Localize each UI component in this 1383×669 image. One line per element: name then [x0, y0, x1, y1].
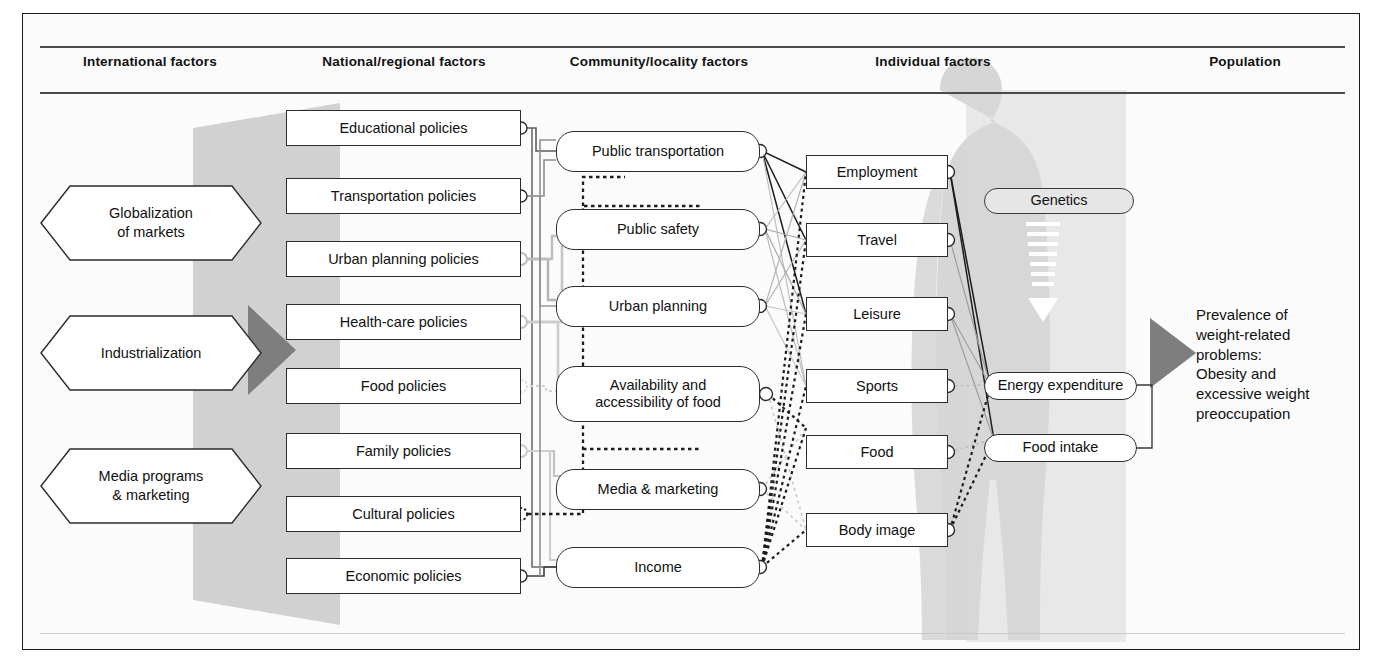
shadow-band-individual [966, 90, 1126, 642]
node-economic-policies[interactable]: Economic policies [286, 558, 521, 594]
figure-canvas: International factors National/regional … [0, 0, 1383, 669]
node-body-image[interactable]: Body image [806, 513, 948, 547]
node-sports[interactable]: Sports [806, 369, 948, 403]
outcome-line-4: Obesity and [1196, 364, 1356, 384]
connectors-national-to-community [524, 128, 566, 576]
node-leisure[interactable]: Leisure [806, 297, 948, 331]
column-header-population: Population [1145, 54, 1345, 69]
header-rule-top [40, 46, 1345, 48]
node-public-transportation[interactable]: Public transportation [556, 131, 760, 172]
footer-rule [40, 633, 1345, 634]
node-employment[interactable]: Employment [806, 155, 948, 189]
hexagon-globalization-label: Globalizationof markets [40, 185, 262, 261]
node-genetics[interactable]: Genetics [984, 188, 1134, 214]
node-family-policies[interactable]: Family policies [286, 433, 521, 469]
column-header-individual: Individual factors [833, 54, 1033, 69]
node-food[interactable]: Food [806, 435, 948, 469]
node-public-safety[interactable]: Public safety [556, 209, 760, 250]
bracket-to-population [1137, 385, 1152, 448]
node-food-intake[interactable]: Food intake [984, 434, 1137, 462]
node-food-policies[interactable]: Food policies [286, 368, 521, 404]
header-rule-bottom [40, 92, 1345, 94]
outcome-line-3: problems: [1196, 345, 1356, 365]
node-urban-planning-policies[interactable]: Urban planning policies [286, 241, 521, 277]
outcome-line-5: excessive weight [1196, 384, 1356, 404]
arrow-to-population [1150, 318, 1196, 388]
node-availability-accessibility-of-food[interactable]: Availability andaccessibility of food [556, 366, 760, 422]
outcome-text: Prevalence of weight-related problems: O… [1196, 305, 1356, 424]
node-transportation-policies[interactable]: Transportation policies [286, 178, 521, 214]
outcome-line-6: preoccupation [1196, 404, 1356, 424]
hexagon-media-programs[interactable]: Media programs& marketing [40, 448, 262, 524]
hexagon-industrialization[interactable]: Industrialization [40, 315, 262, 391]
node-income[interactable]: Income [556, 547, 760, 588]
node-travel[interactable]: Travel [806, 223, 948, 257]
connectors-community-to-individual [762, 151, 806, 567]
node-urban-planning[interactable]: Urban planning [556, 286, 760, 327]
hexagon-globalization[interactable]: Globalizationof markets [40, 185, 262, 261]
column-header-national: National/regional factors [304, 54, 504, 69]
column-header-international: International factors [50, 54, 250, 69]
node-health-care-policies[interactable]: Health-care policies [286, 304, 521, 340]
node-cultural-policies[interactable]: Cultural policies [286, 496, 521, 532]
node-energy-expenditure[interactable]: Energy expenditure [984, 372, 1137, 400]
node-media-and-marketing[interactable]: Media & marketing [556, 469, 760, 510]
outcome-line-1: Prevalence of [1196, 305, 1356, 325]
node-educational-policies[interactable]: Educational policies [286, 110, 521, 146]
outcome-line-2: weight-related [1196, 325, 1356, 345]
hexagon-industrialization-label: Industrialization [40, 315, 262, 391]
column-header-community: Community/locality factors [559, 54, 759, 69]
hexagon-media-programs-label: Media programs& marketing [40, 448, 262, 524]
